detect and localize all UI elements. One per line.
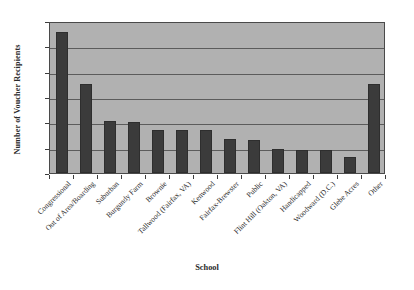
x-axis-category-label: Other	[367, 180, 385, 198]
x-axis-tick-mark	[361, 175, 362, 179]
x-axis-category-label: Public	[245, 180, 264, 199]
gridline	[50, 48, 384, 49]
bar	[344, 157, 356, 173]
x-axis-tick-mark	[217, 175, 218, 179]
gridline	[50, 124, 384, 125]
bar	[200, 130, 212, 173]
gridline	[50, 99, 384, 100]
bar	[368, 84, 380, 173]
x-axis-tick-mark	[241, 175, 242, 179]
bar	[80, 84, 92, 173]
bar	[104, 121, 116, 173]
bar-chart: Number of Voucher Recipients 02040608010…	[0, 0, 414, 290]
x-axis-tick-mark	[97, 175, 98, 179]
x-axis-tick-mark	[145, 175, 146, 179]
x-axis-tick-mark	[313, 175, 314, 179]
x-axis-tick-mark	[265, 175, 266, 179]
bar	[152, 130, 164, 173]
x-axis-title: School	[0, 263, 414, 272]
plot-area	[49, 22, 385, 174]
x-axis-tick-mark	[289, 175, 290, 179]
x-axis-tick-mark	[121, 175, 122, 179]
gridline	[50, 74, 384, 75]
bar	[128, 122, 140, 173]
x-axis-tick-mark	[49, 175, 50, 179]
bar	[320, 150, 332, 173]
bar	[272, 149, 284, 173]
bar	[56, 32, 68, 173]
gridline	[50, 150, 384, 151]
x-axis-tick-mark	[169, 175, 170, 179]
bar	[296, 150, 308, 173]
x-axis-tick-mark	[73, 175, 74, 179]
bar	[176, 130, 188, 173]
x-axis-tick-mark	[385, 175, 386, 179]
y-axis-title: Number of Voucher Recipients	[13, 20, 22, 180]
x-axis-tick-mark	[337, 175, 338, 179]
bar	[224, 139, 236, 173]
bar	[248, 140, 260, 173]
x-axis-tick-mark	[193, 175, 194, 179]
